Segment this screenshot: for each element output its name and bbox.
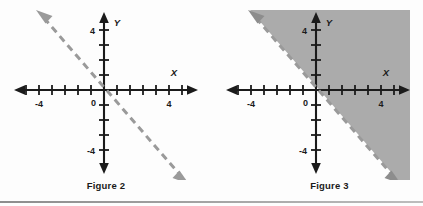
- y-tick-label-negative-4: -4: [299, 146, 307, 156]
- bottom-separator-rule: [0, 201, 423, 203]
- x-tick-label-positive-4: 4: [166, 99, 171, 109]
- line-upper-arrow-icon: [36, 10, 53, 24]
- figure-3-plot: -4 4 0 4 -4 X Y: [212, 0, 423, 180]
- x-tick-label-negative-4: -4: [247, 99, 255, 109]
- origin-label: 0: [91, 98, 96, 108]
- x-axis-left-arrow-icon: [14, 85, 25, 95]
- x-axis-label: X: [170, 67, 178, 78]
- x-tick-label-negative-4: -4: [35, 99, 43, 109]
- figure-3-caption: Figure 3: [212, 180, 423, 191]
- x-axis-right-arrow-icon: [187, 85, 198, 95]
- figure-3-panel: -4 4 0 4 -4 X Y Figure 3: [212, 0, 423, 206]
- x-axis-label: X: [382, 67, 390, 78]
- figure-2-panel: -4 4 0 4 -4 X Y Figure 2: [0, 0, 212, 206]
- y-tick-label-negative-4: -4: [87, 146, 95, 156]
- y-tick-label-positive-4: 4: [90, 26, 95, 36]
- shaded-solution-region: [250, 10, 410, 180]
- x-axis-left-arrow-icon: [226, 85, 237, 95]
- line-lower-arrow-icon: [173, 171, 190, 181]
- x-tick-label-positive-4: 4: [378, 99, 383, 109]
- y-tick-label-positive-4: 4: [302, 26, 307, 36]
- origin-label: 0: [303, 98, 308, 108]
- y-axis-label: Y: [114, 17, 122, 28]
- x-axis-group: [14, 85, 198, 95]
- figure-2-plot: -4 4 0 4 -4 X Y: [0, 0, 212, 180]
- figure-2-caption: Figure 2: [0, 180, 212, 191]
- boundary-dashed-line: [36, 10, 189, 180]
- y-axis-bottom-arrow-icon: [99, 163, 109, 174]
- y-axis-top-arrow-icon: [99, 12, 109, 23]
- y-axis-bottom-arrow-icon: [311, 163, 321, 174]
